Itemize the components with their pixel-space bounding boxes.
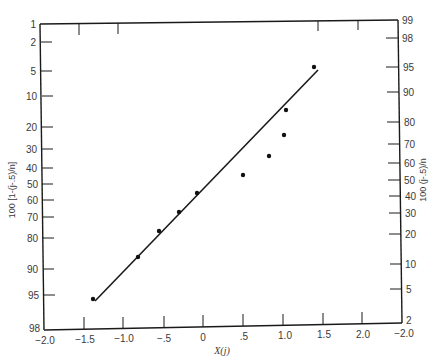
x-axis-title: X(j): [213, 345, 230, 357]
left-tick-label: 70: [27, 212, 39, 223]
x-tick-label: −2.0: [35, 335, 55, 346]
x-tick-labels: −2.0 −1.5 −1.0 −.5 0 .5 1.0 1.5 2.0 −2.0: [35, 328, 414, 346]
left-tick-label: 40: [26, 163, 38, 174]
right-tick-label: 40: [405, 191, 417, 202]
left-tick-label: 1: [30, 19, 36, 30]
data-point: [91, 297, 95, 301]
left-axis: [40, 24, 44, 330]
right-tick-labels: 99 98 95 90 80 70 60 50 40 30 20 10 5 2: [402, 15, 417, 326]
data-point: [312, 65, 316, 69]
right-tick-label: 70: [404, 139, 416, 150]
data-points: [91, 65, 316, 301]
x-tick-label: 1.0: [278, 330, 292, 341]
right-tick-label: 95: [403, 62, 415, 73]
data-point: [284, 108, 288, 112]
data-point: [177, 210, 181, 214]
x-tick-label-right-end: −2.0: [394, 328, 414, 339]
left-tick-label: 10: [26, 91, 38, 102]
right-tick-label: 10: [405, 259, 417, 270]
left-y-axis-title: 100 [1-(j-.5)/n]: [7, 162, 17, 219]
plot-frame: [40, 20, 402, 330]
data-point: [195, 191, 199, 195]
right-tick-label: 90: [403, 87, 415, 98]
left-tick-label: 98: [29, 323, 41, 334]
right-tick-label: 98: [402, 33, 414, 44]
left-tick-label: 60: [27, 195, 39, 206]
x-tick-label: −.5: [157, 333, 172, 344]
x-tick-label: 1.5: [317, 329, 331, 340]
right-tick-label: 60: [404, 158, 416, 169]
right-tick-label: 2: [406, 315, 412, 326]
data-point: [282, 133, 286, 137]
left-tick-label: 30: [26, 144, 38, 155]
right-y-axis-title: 100 (j-.5)/n: [418, 158, 428, 202]
right-tick-label: 80: [404, 117, 416, 128]
left-tick-label: 80: [27, 233, 39, 244]
probability-plot: 1 2 5 10 20 30 40 50 60 70 80 90 95 98 9…: [0, 0, 441, 362]
x-tick-label: .5: [240, 331, 249, 342]
left-tick-label: 2: [30, 37, 36, 48]
x-tick-label: −1.5: [75, 334, 95, 345]
data-point: [241, 173, 245, 177]
right-tick-label: 5: [406, 284, 412, 295]
left-tick-label: 20: [26, 122, 38, 133]
bottom-axis: [44, 323, 402, 330]
left-tick-label: 95: [28, 290, 40, 301]
top-axis: [40, 20, 398, 24]
right-tick-label: 99: [402, 15, 414, 26]
fit-line: [95, 70, 318, 301]
data-point: [267, 154, 271, 158]
right-axis: [398, 20, 402, 323]
data-point: [136, 255, 140, 259]
left-tick-label: 50: [27, 179, 39, 190]
left-tick-labels: 1 2 5 10 20 30 40 50 60 70 80 90 95 98: [26, 19, 41, 334]
x-tick-label: 2.0: [356, 329, 370, 340]
x-tick-label: 0: [200, 332, 206, 343]
x-tick-label: −1.0: [114, 333, 134, 344]
data-point: [157, 229, 161, 233]
right-ticks: [386, 38, 402, 289]
left-tick-label: 90: [27, 264, 39, 275]
left-tick-label: 5: [30, 66, 36, 77]
right-tick-label: 20: [405, 229, 417, 240]
right-tick-label: 50: [404, 175, 416, 186]
right-tick-label: 30: [405, 208, 417, 219]
